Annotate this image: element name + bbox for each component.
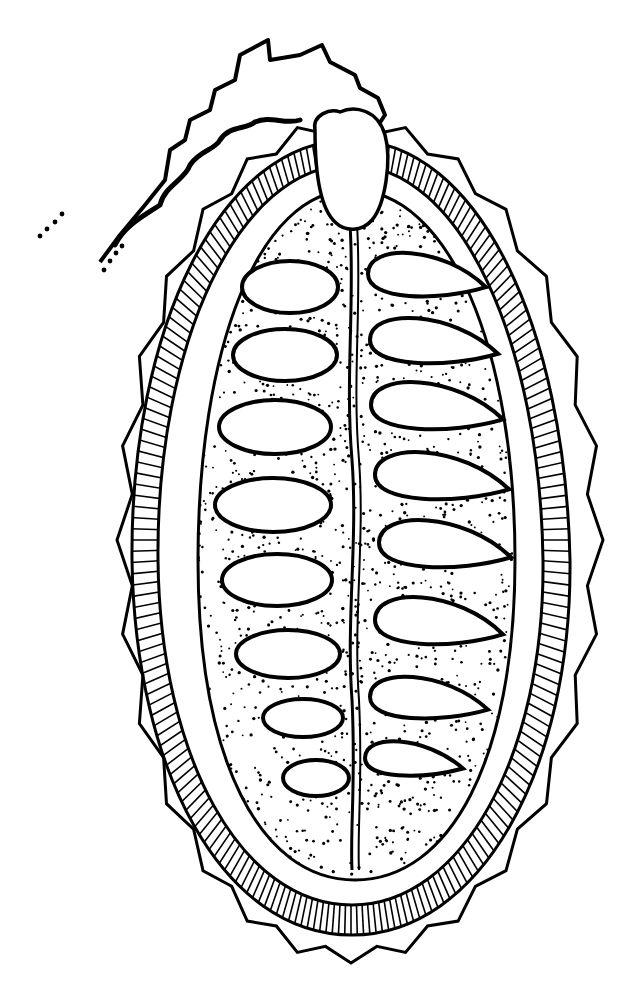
- seed: [242, 261, 338, 313]
- stipple-dot: [224, 345, 227, 348]
- stipple-dot: [233, 462, 236, 465]
- stipple-dot: [398, 517, 401, 520]
- stipple-dot: [285, 836, 287, 838]
- stipple-dot: [479, 191, 482, 194]
- stipple-dot: [445, 373, 447, 375]
- stipple-dot: [478, 433, 481, 436]
- stipple-dot: [321, 555, 323, 557]
- stipple-dot: [466, 727, 469, 730]
- stipple-dot: [425, 843, 428, 846]
- stipple-dot: [270, 394, 273, 397]
- stipple-dot: [502, 579, 504, 581]
- stipple-dot: [253, 611, 255, 613]
- stipple-dot: [245, 324, 248, 327]
- stipple-dot: [392, 841, 394, 843]
- stipple-dot: [334, 473, 336, 475]
- stipple-dot: [296, 830, 299, 833]
- stipple-dot: [366, 627, 368, 629]
- stipple-dot: [388, 661, 391, 664]
- stipple-dot: [387, 780, 390, 783]
- stipple-dot: [499, 452, 501, 454]
- stipple-dot: [374, 485, 376, 487]
- stipple-dot: [485, 497, 488, 500]
- stipple-dot: [435, 306, 438, 309]
- stipple-dot: [325, 680, 328, 683]
- stipple-dot: [332, 438, 335, 441]
- stipple-dot: [333, 242, 336, 245]
- stipple-dot: [335, 529, 337, 531]
- stipple-dot: [203, 500, 205, 502]
- stipple-dot: [376, 376, 379, 379]
- stipple-dot: [211, 493, 213, 495]
- stipple-dot: [344, 670, 346, 672]
- stipple-dot: [238, 473, 240, 475]
- stipple-dot: [423, 803, 426, 806]
- stipple-dot: [503, 639, 506, 642]
- stipple-dot: [470, 449, 472, 451]
- stipple-dot: [360, 415, 363, 418]
- stipple-dot: [403, 377, 405, 379]
- stipple-dot: [483, 753, 485, 755]
- stipple-dot: [341, 459, 344, 462]
- stipple-dot: [505, 451, 507, 453]
- stipple-dot: [227, 539, 229, 541]
- stipple-dot: [391, 510, 393, 512]
- stipple-dot: [336, 343, 338, 345]
- stipple-dot: [261, 679, 264, 682]
- stipple-dot: [225, 725, 227, 727]
- stipple-dot: [317, 394, 319, 396]
- stipple-dot: [298, 850, 300, 852]
- stipple-dot: [329, 448, 332, 451]
- stipple-dot: [460, 364, 463, 367]
- stipple-dot: [339, 839, 342, 842]
- stipple-dot: [364, 366, 367, 369]
- stipple-dot: [254, 767, 256, 769]
- stipple-dot: [331, 687, 333, 689]
- stipple-dot: [321, 319, 324, 322]
- stipple-dot: [355, 542, 357, 544]
- stipple-dot: [254, 706, 257, 709]
- stipple-dot: [370, 731, 372, 733]
- stipple-dot: [393, 662, 395, 664]
- stipple-dot: [343, 759, 345, 761]
- stipple-dot: [460, 661, 463, 664]
- stipple-dot: [378, 309, 381, 312]
- stipple-dot: [281, 691, 283, 693]
- stipple-dot: [299, 754, 301, 756]
- stipple-dot: [248, 683, 251, 686]
- stipple-dot: [306, 685, 309, 688]
- stipple-dot: [373, 722, 376, 725]
- stipple-dot: [431, 311, 434, 314]
- stipple-dot: [315, 462, 318, 465]
- stipple-dot: [381, 665, 383, 667]
- stipple-dot: [310, 209, 312, 211]
- stipple-dot: [369, 352, 372, 355]
- stipple-dot: [424, 787, 427, 790]
- stipple-dot: [393, 573, 395, 575]
- stipple-dot: [241, 534, 243, 536]
- stipple-dot: [392, 227, 395, 230]
- stipple-dot: [420, 370, 422, 372]
- stipple-dot: [363, 568, 365, 570]
- stipple-dot: [383, 784, 386, 787]
- stipple-dot: [423, 236, 426, 239]
- stipple-dot: [273, 747, 276, 750]
- stipple-dot: [365, 343, 368, 346]
- stipple-dot: [447, 438, 449, 440]
- stipple-dot: [496, 194, 499, 197]
- stipple-dot: [349, 764, 351, 766]
- stipple-dot: [336, 334, 339, 337]
- stipple-dot: [238, 671, 241, 674]
- stipple-dot: [245, 634, 248, 637]
- stipple-dot: [370, 784, 372, 786]
- stipple-dot: [495, 594, 497, 596]
- stipple-dot: [339, 427, 341, 429]
- stipple-dot: [380, 227, 383, 230]
- stipple-dot: [426, 230, 429, 233]
- stipple-dot: [199, 520, 202, 523]
- stipple-dot: [201, 546, 203, 548]
- stipple-dot: [473, 592, 476, 595]
- stipple-dot: [435, 809, 437, 811]
- stipple-dot: [474, 526, 476, 528]
- stipple-dot: [223, 707, 226, 710]
